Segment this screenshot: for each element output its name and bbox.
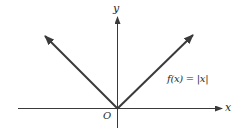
graph-right-ray [118, 35, 194, 109]
absolute-value-graph [0, 0, 235, 133]
y-axis-label: y [113, 3, 119, 14]
origin-label: O [103, 111, 111, 121]
graph-left-ray [45, 36, 118, 109]
x-axis-label: x [225, 102, 231, 113]
function-label: f(x) = |x| [167, 74, 208, 84]
